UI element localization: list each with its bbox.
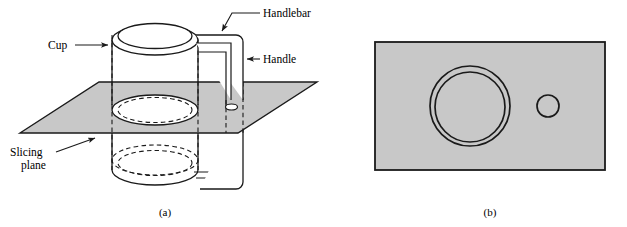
label-handlebar-leader [222, 13, 260, 31]
caption-panel-a: (a) [159, 206, 172, 219]
label-slicing-plane-leader [56, 138, 95, 152]
label-slicing-plane-line2: plane [21, 159, 46, 172]
label-handlebar-text: Handlebar [263, 7, 311, 19]
label-handle: Handle [247, 53, 296, 65]
label-handle-text: Handle [263, 53, 296, 65]
label-slicing-plane-line1: Slicing [10, 146, 43, 159]
panel-a: Cup Handlebar Handle Slicing plane (a) [10, 7, 317, 219]
cross-section-rectangle [375, 42, 605, 170]
figure-container: Cup Handlebar Handle Slicing plane (a) [0, 0, 627, 227]
label-cup-text: Cup [48, 39, 67, 52]
label-handlebar: Handlebar [222, 7, 311, 31]
cup-plane-intersection [112, 95, 198, 125]
caption-panel-b: (b) [484, 206, 497, 219]
label-cup: Cup [48, 39, 108, 52]
figure-svg: Cup Handlebar Handle Slicing plane (a) [0, 0, 627, 227]
label-slicing-plane: Slicing plane [10, 138, 95, 172]
panel-b: (b) [375, 42, 605, 219]
